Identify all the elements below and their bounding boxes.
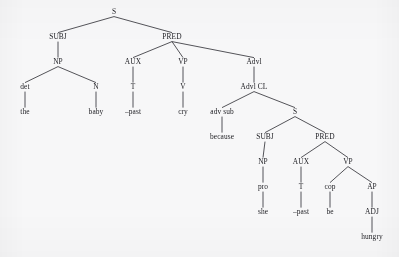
tree-node-vp-sub: VP (343, 157, 353, 166)
tree-edge-vp-sub-to-ap-sub (348, 167, 372, 183)
tree-node-pred-sub: PRED (315, 132, 335, 141)
tree-node-layer: SSUBJPREDNPAUXVPAdvldetNTVAdvl CLthebaby… (20, 7, 383, 241)
tree-node-t-main: T (131, 82, 136, 91)
tree-edge-np-main-to-det-main (25, 67, 58, 83)
tree-node-advlcl: Advl CL (241, 82, 268, 91)
tree-node-past1: –past (124, 107, 142, 116)
tree-edge-vp-sub-to-cop-sub (330, 167, 348, 183)
tree-node-subj-sub: SUBJ (256, 132, 274, 141)
syntax-tree-diagram: SSUBJPREDNPAUXVPAdvldetNTVAdvl CLthebaby… (0, 0, 399, 257)
tree-node-v-main: V (180, 82, 186, 91)
tree-node-past2: –past (292, 207, 310, 216)
tree-node-baby: baby (89, 107, 104, 116)
tree-node-np-main: NP (53, 57, 63, 66)
tree-edge-subj-sub-to-np-sub (263, 142, 265, 158)
tree-node-the: the (20, 107, 30, 116)
tree-node-n-main: N (93, 82, 99, 91)
tree-edge-pred-main-to-advl-main (172, 42, 254, 58)
tree-node-aux-sub: AUX (293, 157, 310, 166)
tree-node-be: be (326, 207, 334, 216)
tree-node-aux-main: AUX (125, 57, 142, 66)
tree-node-pro-sub: pro (258, 182, 268, 191)
tree-node-hungry: hungry (361, 232, 383, 241)
tree-node-s-sub: S (293, 107, 297, 116)
tree-edge-s-main-to-pred-main (114, 17, 172, 33)
tree-node-vp-main: VP (178, 57, 188, 66)
tree-node-because: because (210, 132, 235, 141)
tree-edge-advlcl-to-advsub (222, 92, 254, 108)
tree-node-cry: cry (178, 107, 188, 116)
tree-edge-pred-main-to-vp-main (172, 42, 183, 58)
tree-node-np-sub: NP (258, 157, 268, 166)
tree-node-det-main: det (20, 82, 30, 91)
tree-edge-s-sub-to-pred-sub (295, 117, 325, 133)
tree-node-advl-main: Advl (246, 57, 261, 66)
tree-canvas: SSUBJPREDNPAUXVPAdvldetNTVAdvl CLthebaby… (0, 0, 399, 257)
tree-node-adj-sub: ADJ (365, 207, 379, 216)
tree-node-pred-main: PRED (162, 32, 182, 41)
tree-node-advsub: adv sub (210, 107, 234, 116)
tree-edge-s-main-to-subj-main (58, 17, 114, 33)
tree-edge-layer (25, 17, 372, 233)
tree-edge-pred-sub-to-aux-sub (301, 142, 325, 158)
tree-edge-advlcl-to-s-sub (254, 92, 295, 108)
tree-edge-np-main-to-n-main (58, 67, 96, 83)
tree-edge-s-sub-to-subj-sub (265, 117, 295, 133)
tree-node-t-sub: T (299, 182, 304, 191)
tree-node-ap-sub: AP (367, 182, 377, 191)
tree-edge-pred-sub-to-vp-sub (325, 142, 348, 158)
tree-edge-pred-main-to-aux-main (133, 42, 172, 58)
tree-node-she: she (258, 207, 269, 216)
tree-node-s-main: S (112, 7, 116, 16)
tree-node-cop-sub: cop (325, 182, 336, 191)
tree-node-subj-main: SUBJ (49, 32, 67, 41)
